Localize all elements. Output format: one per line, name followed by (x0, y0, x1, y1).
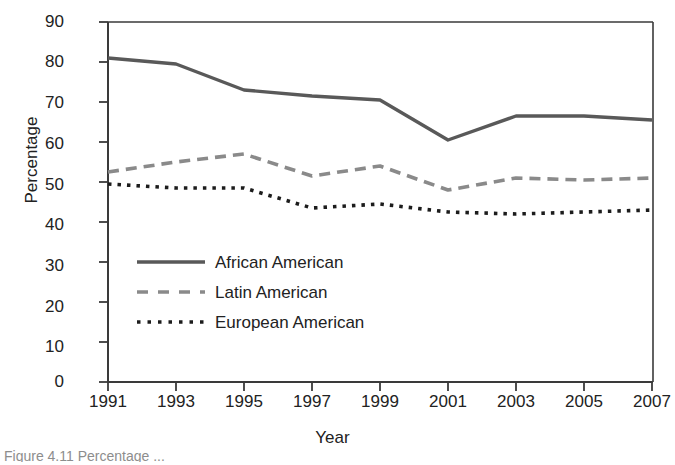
series-line-european-american (108, 184, 652, 214)
axis-frame (108, 22, 653, 382)
figure-caption: Figure 4.11 Percentage ... (4, 448, 664, 462)
y-axis-ticks (99, 22, 108, 382)
series-line-latin-american (108, 154, 652, 190)
series-line-african-american (108, 58, 652, 140)
legend-label-african-american: African American (215, 253, 344, 273)
legend-label-european-american: European American (215, 313, 364, 333)
x-axis-ticks (108, 382, 652, 391)
legend (137, 262, 205, 322)
legend-label-latin-american: Latin American (215, 283, 327, 303)
